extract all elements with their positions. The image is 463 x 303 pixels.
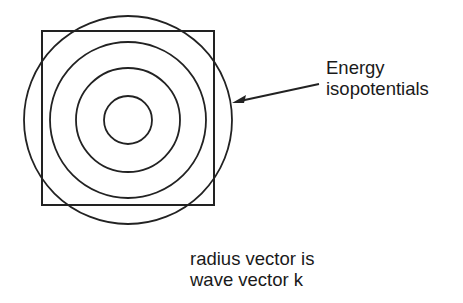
isopotential-circle-4 xyxy=(24,16,232,224)
arrow-line xyxy=(240,84,319,101)
energy-label-line2: isopotentials xyxy=(326,78,429,99)
energy-label-line1: Energy xyxy=(326,57,429,78)
diagram-canvas: Energy isopotentials radius vector is wa… xyxy=(0,0,463,303)
isopotential-circle-1 xyxy=(104,96,152,144)
brillouin-zone-square xyxy=(42,31,214,205)
isopotential-circle-3 xyxy=(50,42,206,198)
isopotential-circle-2 xyxy=(76,68,180,172)
caption: radius vector is wave vector k xyxy=(190,248,314,290)
arrow-head-icon xyxy=(232,95,246,103)
caption-line2: wave vector k xyxy=(190,269,314,290)
energy-label: Energy isopotentials xyxy=(326,57,429,99)
caption-line1: radius vector is xyxy=(190,248,314,269)
